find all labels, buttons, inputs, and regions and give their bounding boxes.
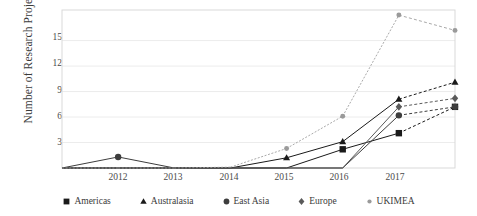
line-segment bbox=[343, 115, 399, 168]
plot-frame bbox=[62, 10, 455, 168]
square-icon bbox=[62, 197, 71, 206]
line-segment bbox=[399, 82, 455, 99]
legend-item-europe[interactable]: Europe bbox=[297, 196, 336, 207]
dot-icon bbox=[365, 197, 374, 206]
circle-icon bbox=[222, 197, 231, 206]
diamond-icon bbox=[297, 197, 306, 206]
line-segment bbox=[118, 157, 174, 168]
data-point bbox=[452, 104, 458, 110]
line-segment bbox=[62, 157, 118, 168]
legend-item-australasia[interactable]: Australasia bbox=[139, 196, 194, 207]
data-point bbox=[339, 138, 346, 144]
data-series-group bbox=[62, 13, 459, 168]
data-point bbox=[396, 112, 402, 118]
legend-item-ukimea[interactable]: UKIMEA bbox=[365, 196, 415, 207]
data-point bbox=[453, 28, 458, 33]
gridlines bbox=[62, 41, 455, 143]
line-segment bbox=[230, 158, 286, 168]
data-point bbox=[340, 114, 345, 119]
line-segment bbox=[399, 15, 455, 30]
triangle-icon bbox=[139, 197, 148, 206]
line-segment bbox=[287, 142, 343, 158]
data-point bbox=[396, 13, 401, 18]
plot-border bbox=[62, 10, 455, 168]
line-segment bbox=[343, 107, 399, 168]
data-point bbox=[115, 154, 121, 160]
legend-label: Australasia bbox=[151, 196, 194, 207]
legend-label: East Asia bbox=[234, 196, 270, 207]
legend-label: UKIMEA bbox=[377, 196, 415, 207]
data-point bbox=[452, 95, 458, 103]
chart-legend: AmericasAustralasiaEast AsiaEuropeUKIMEA bbox=[0, 192, 477, 210]
legend-item-americas[interactable]: Americas bbox=[62, 196, 110, 207]
research-projects-line-chart: Number of Research Projects 15 12 9 6 3 … bbox=[0, 0, 477, 216]
plot-area bbox=[0, 0, 477, 216]
legend-label: Europe bbox=[309, 196, 336, 207]
line-segment bbox=[287, 149, 343, 168]
data-point bbox=[284, 146, 289, 151]
series-ukimea bbox=[62, 13, 457, 168]
line-segment bbox=[230, 148, 286, 167]
data-point bbox=[340, 146, 346, 152]
data-point bbox=[396, 130, 402, 136]
data-point bbox=[451, 79, 458, 85]
legend-label: Americas bbox=[74, 196, 110, 207]
line-segment bbox=[399, 98, 455, 106]
legend-item-east-asia[interactable]: East Asia bbox=[222, 196, 270, 207]
